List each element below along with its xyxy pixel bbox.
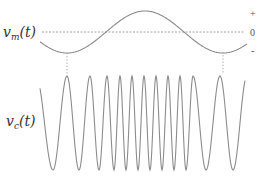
level-plus-label: + bbox=[250, 8, 256, 19]
level-zero-label: 0 bbox=[250, 27, 255, 38]
message-label: vm(t) bbox=[3, 24, 36, 42]
carrier-label: vc(t) bbox=[6, 113, 36, 131]
carrier-waveform bbox=[40, 76, 245, 170]
trough-guide-lines bbox=[67, 52, 223, 74]
fm-modulation-diagram: vm(t) vc(t) + 0 - bbox=[0, 0, 264, 177]
level-minus-label: - bbox=[251, 45, 254, 56]
